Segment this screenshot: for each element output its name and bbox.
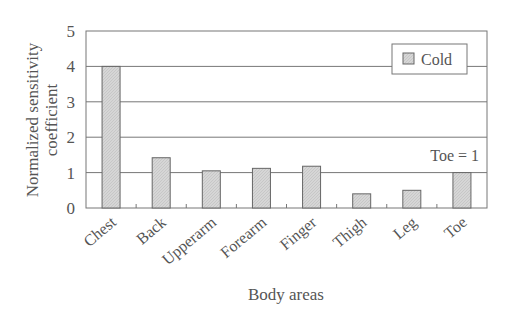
bar	[102, 66, 120, 208]
y-tick-label: 3	[67, 93, 76, 112]
x-axis-labels: ChestBackUpperarmForearmFingerThighLegTo…	[80, 213, 470, 269]
x-tick-label: Forearm	[217, 213, 270, 261]
y-axis-ticks: 012345	[67, 22, 76, 218]
y-axis-title-line2: coefficient	[42, 84, 61, 157]
legend-swatch-icon	[403, 53, 414, 64]
x-tick-label: Leg	[390, 213, 421, 243]
x-tick-label: Chest	[80, 213, 119, 250]
x-tick-label: Finger	[277, 213, 321, 254]
bar	[252, 168, 270, 208]
y-tick-label: 5	[67, 22, 76, 41]
bar-chart: 012345 ChestBackUpperarmForearmFingerThi…	[0, 0, 509, 319]
bar	[152, 158, 170, 208]
y-tick-label: 4	[67, 57, 76, 76]
annotation: Toe = 1	[430, 147, 479, 164]
bar	[202, 171, 220, 208]
x-tick-label: Back	[133, 213, 169, 247]
x-axis-ticks	[136, 204, 437, 208]
bar	[303, 166, 321, 208]
y-tick-label: 0	[67, 199, 76, 218]
bar	[353, 194, 371, 208]
y-axis-title-line1: Normalized sensitivity	[23, 42, 42, 197]
gridlines	[86, 66, 487, 172]
y-tick-label: 1	[67, 164, 76, 183]
bar	[453, 173, 471, 208]
x-tick-label: Thigh	[329, 213, 370, 251]
x-tick-label: Toe	[441, 213, 470, 241]
bar	[403, 190, 421, 208]
y-tick-label: 2	[67, 128, 76, 147]
x-axis-title: Body areas	[248, 285, 324, 304]
x-tick-label: Upperarm	[159, 213, 221, 269]
legend-label: Cold	[421, 51, 452, 68]
legend: Cold	[392, 44, 467, 74]
y-axis-title: Normalized sensitivity coefficient	[23, 42, 61, 197]
